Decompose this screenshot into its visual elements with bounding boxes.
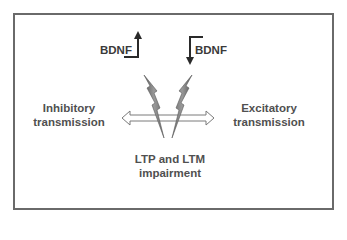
right-lightning-bolt-icon — [172, 75, 192, 138]
left-lightning-bolt-icon — [144, 75, 164, 138]
excitatory-line1: Excitatory — [230, 101, 308, 115]
bdnf-right-label: BDNF — [195, 44, 227, 57]
double-headed-arrow-icon — [122, 111, 214, 125]
excitatory-transmission-label: Excitatory transmission — [230, 101, 308, 129]
bdnf-left-label: BDNF — [100, 44, 132, 57]
ltp-ltm-impairment-label: LTP and LTM impairment — [125, 152, 215, 180]
ltp-line1: LTP and LTM — [125, 152, 215, 166]
ltp-line2: impairment — [125, 166, 215, 180]
inhibitory-transmission-label: Inhibitory transmission — [30, 101, 108, 129]
inhibitory-line2: transmission — [30, 115, 108, 129]
excitatory-line2: transmission — [230, 115, 308, 129]
inhibitory-line1: Inhibitory — [30, 101, 108, 115]
